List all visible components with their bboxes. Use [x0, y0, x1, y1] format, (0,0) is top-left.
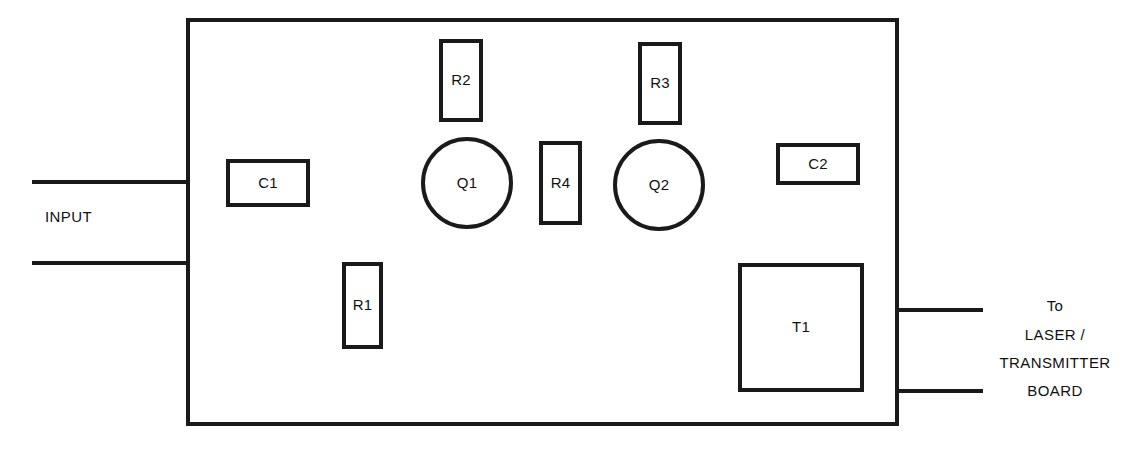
component-label-c2: C2 [808, 155, 828, 172]
diagram-canvas: C1R2R3R4R1C2T1Q1Q2 INPUT ToLASER /TRANSM… [0, 0, 1144, 451]
component-label-q1: Q1 [457, 174, 477, 191]
component-r4: R4 [541, 143, 580, 223]
component-t1: T1 [740, 265, 862, 390]
component-label-r2: R2 [451, 71, 471, 88]
component-r2: R2 [441, 41, 481, 120]
component-r1: R1 [344, 264, 381, 347]
output-label-line-3: BOARD [1027, 382, 1082, 399]
component-label-t1: T1 [792, 318, 810, 335]
output-label-line-2: TRANSMITTER [999, 354, 1110, 371]
component-q1: Q1 [423, 139, 511, 227]
component-label-r3: R3 [650, 74, 670, 91]
component-label-r1: R1 [353, 296, 373, 313]
output-label-line-1: LASER / [1025, 326, 1086, 343]
component-label-c1: C1 [258, 174, 278, 191]
component-label-r4: R4 [551, 174, 571, 191]
input-label: INPUT [45, 208, 92, 225]
output-label-line-0: To [1047, 297, 1064, 314]
component-q2: Q2 [615, 141, 703, 229]
output-destination-label: ToLASER /TRANSMITTERBOARD [999, 297, 1110, 399]
component-r3: R3 [640, 44, 680, 123]
pcb-layout-diagram: C1R2R3R4R1C2T1Q1Q2 INPUT ToLASER /TRANSM… [0, 0, 1144, 451]
component-c1: C1 [228, 161, 308, 205]
component-c2: C2 [778, 145, 858, 183]
component-label-q2: Q2 [649, 176, 669, 193]
